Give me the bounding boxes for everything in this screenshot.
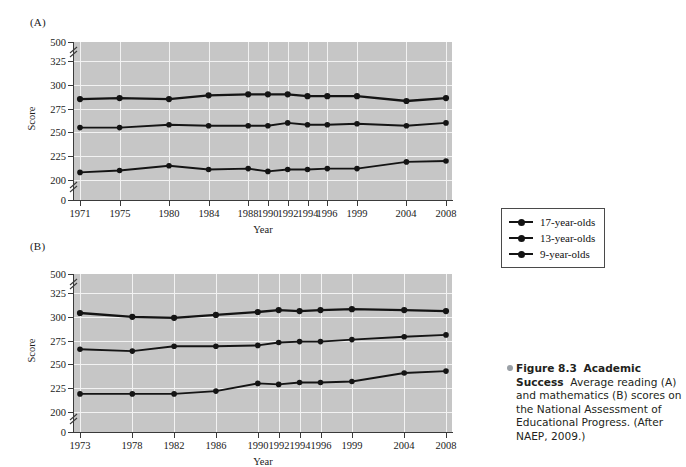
x-axis-tick <box>321 433 322 438</box>
x-axis-tick <box>404 433 405 438</box>
data-point <box>129 314 135 320</box>
data-point <box>245 123 251 129</box>
data-point <box>325 122 331 128</box>
data-point <box>245 166 251 172</box>
data-point <box>171 315 177 321</box>
legend-item-13[interactable]: 13-year-olds <box>509 230 595 246</box>
x-axis-tick <box>308 201 309 206</box>
data-point <box>285 120 291 126</box>
panel-a-series-layer <box>74 42 452 200</box>
x-axis-tick <box>258 433 259 438</box>
data-point <box>77 346 83 352</box>
x-axis-tick <box>169 201 170 206</box>
data-point <box>117 95 123 101</box>
x-axis-tick <box>357 201 358 206</box>
x-axis-tick-label: 1980 <box>159 208 180 219</box>
x-axis-tick-label: 1973 <box>70 440 91 451</box>
caption-figure-number: Figure 8.3 <box>516 362 577 374</box>
data-point <box>401 334 407 340</box>
data-point <box>255 381 261 387</box>
legend-label-17: 17-year-olds <box>540 216 595 228</box>
x-axis-tick <box>406 201 407 206</box>
x-axis-tick-label: 2004 <box>396 208 417 219</box>
legend-line-marker-icon <box>509 249 533 259</box>
data-point <box>325 166 331 172</box>
data-point <box>401 370 407 376</box>
data-point <box>77 310 83 316</box>
data-point <box>305 122 311 128</box>
legend-line-marker-icon <box>509 217 533 227</box>
x-axis-tick-label: 1990 <box>258 208 279 219</box>
x-axis-tick <box>80 201 81 206</box>
series-line-13-year-olds <box>80 123 446 128</box>
x-axis-tick <box>446 433 447 438</box>
legend-item-17[interactable]: 17-year-olds <box>509 214 595 230</box>
data-point <box>77 391 83 397</box>
series-line-9-year-olds <box>80 371 446 394</box>
panel-b-mathematics-chart: (B) 020022525027530032550019731978198219… <box>0 232 500 462</box>
data-point <box>130 391 136 397</box>
series-line-13-year-olds <box>80 335 446 351</box>
figure-caption: Figure 8.3 Academic Success Average read… <box>516 362 686 444</box>
data-point <box>117 125 123 131</box>
x-axis-tick-label: 2008 <box>436 440 457 451</box>
data-point <box>324 93 330 99</box>
data-point <box>213 312 219 318</box>
x-axis-tick <box>268 201 269 206</box>
data-point <box>206 123 212 129</box>
x-axis-tick <box>216 433 217 438</box>
x-axis-tick <box>352 433 353 438</box>
data-point <box>304 93 310 99</box>
legend: 17-year-olds 13-year-olds 9-year-olds <box>501 208 605 268</box>
legend-label-9: 9-year-olds <box>540 248 590 260</box>
data-point <box>77 125 83 131</box>
x-axis-tick-label: 1992 <box>278 208 299 219</box>
data-point <box>401 307 407 313</box>
data-point <box>117 168 123 174</box>
x-axis-tick-label: 2008 <box>436 208 457 219</box>
series-line-17-year-olds <box>80 94 446 101</box>
data-point <box>265 91 271 97</box>
x-axis-tick-label: 1990 <box>248 440 269 451</box>
x-axis-title: Year <box>253 456 272 467</box>
y-axis-title: Score <box>26 316 37 386</box>
data-point <box>443 158 449 164</box>
data-point <box>276 307 282 313</box>
data-point <box>265 123 271 129</box>
data-point <box>255 309 261 315</box>
data-point <box>354 121 360 127</box>
x-axis-tick-label: 2004 <box>394 440 415 451</box>
data-point <box>213 344 219 350</box>
data-point <box>354 166 360 172</box>
x-axis-tick-label: 1999 <box>342 440 363 451</box>
x-axis-tick-label: 1975 <box>110 208 131 219</box>
x-axis-tick-label: 1971 <box>70 208 91 219</box>
x-axis-tick <box>120 201 121 206</box>
data-point <box>443 95 449 101</box>
y-axis-title: Score <box>26 84 37 154</box>
x-axis-tick-label: 1978 <box>122 440 143 451</box>
data-point <box>297 308 303 314</box>
x-axis-tick-label: 1982 <box>164 440 185 451</box>
x-axis-tick-label: 1986 <box>206 440 227 451</box>
data-point <box>77 170 83 176</box>
data-point <box>317 307 323 313</box>
x-axis-tick-label: 1996 <box>317 208 338 219</box>
data-point <box>166 96 172 102</box>
data-point <box>171 344 177 350</box>
data-point <box>443 308 449 314</box>
data-point <box>213 388 219 394</box>
data-point <box>245 91 251 97</box>
data-point <box>166 122 172 128</box>
x-axis-tick-label: 1988 <box>238 208 259 219</box>
data-point <box>443 120 449 126</box>
data-point <box>443 332 449 338</box>
legend-line-marker-icon <box>509 233 533 243</box>
x-axis-tick-label: 1996 <box>311 440 332 451</box>
panel-a-reading-chart: (A) 020022525027530032550019711975198019… <box>0 0 500 232</box>
data-point <box>206 92 212 98</box>
data-point <box>354 93 360 99</box>
legend-item-9[interactable]: 9-year-olds <box>509 246 595 262</box>
data-point <box>206 167 212 173</box>
